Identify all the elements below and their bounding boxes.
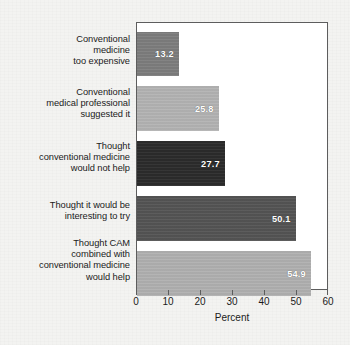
plot-inner: 13.2 25.8 27.7 50.1 54.9 [137, 23, 327, 289]
category-label-line: too expensive [6, 56, 130, 67]
category-axis-labels: Conventional medicine too expensive Conv… [6, 22, 134, 290]
category-label-line: Thought it would be [6, 200, 130, 211]
x-tick-60 [327, 290, 328, 295]
x-tick-10 [168, 290, 169, 295]
bar-cam-combined-would-help: 54.9 [137, 251, 311, 296]
x-tick-label-20: 20 [185, 296, 215, 307]
category-label-line: Thought [6, 141, 130, 152]
category-label-line: would help [6, 272, 130, 283]
plot-area: 13.2 25.8 27.7 50.1 54.9 [136, 22, 328, 290]
bar-interesting-to-try: 50.1 [137, 196, 296, 241]
x-tick-30 [232, 290, 233, 295]
category-label-line: would not help [6, 163, 130, 174]
x-axis-title: Percent [136, 312, 328, 323]
bar-conventional-medicine-too-expensive: 13.2 [137, 32, 179, 76]
bar-value-label: 25.8 [195, 104, 214, 114]
category-label-conventional-medicine-too-expensive: Conventional medicine too expensive [6, 34, 130, 68]
x-tick-label-10: 10 [153, 296, 183, 307]
bar-value-label: 54.9 [287, 269, 306, 279]
category-label-line: medicine [6, 45, 130, 56]
category-label-cam-combined-would-help: Thought CAM combined with conventional m… [6, 238, 130, 283]
category-label-line: medical professional [6, 98, 130, 109]
x-tick-label-30: 30 [217, 296, 247, 307]
category-label-medical-professional-suggested: Conventional medical professional sugges… [6, 87, 130, 121]
bar-chart-figure: Conventional medicine too expensive Conv… [0, 0, 350, 345]
category-label-line: suggested it [6, 109, 130, 120]
category-label-line: conventional medicine [6, 152, 130, 163]
x-tick-label-0: 0 [121, 296, 151, 307]
x-tick-label-40: 40 [249, 296, 279, 307]
x-tick-40 [264, 290, 265, 295]
x-tick-label-50: 50 [281, 296, 311, 307]
x-tick-20 [200, 290, 201, 295]
bar-value-label: 50.1 [272, 214, 291, 224]
category-label-line: Conventional [6, 34, 130, 45]
category-label-interesting-to-try: Thought it would be interesting to try [6, 200, 130, 222]
category-label-line: conventional medicine [6, 260, 130, 271]
bar-conventional-would-not-help: 27.7 [137, 141, 225, 186]
x-tick-50 [296, 290, 297, 295]
x-tick-label-60: 60 [313, 296, 343, 307]
category-label-line: Thought CAM [6, 238, 130, 249]
x-tick-0 [136, 290, 137, 295]
bar-value-label: 13.2 [155, 49, 174, 59]
category-label-line: combined with [6, 249, 130, 260]
category-label-line: interesting to try [6, 211, 130, 222]
bar-medical-professional-suggested: 25.8 [137, 86, 219, 131]
category-label-line: Conventional [6, 87, 130, 98]
category-label-conventional-would-not-help: Thought conventional medicine would not … [6, 141, 130, 175]
bar-value-label: 27.7 [201, 159, 220, 169]
